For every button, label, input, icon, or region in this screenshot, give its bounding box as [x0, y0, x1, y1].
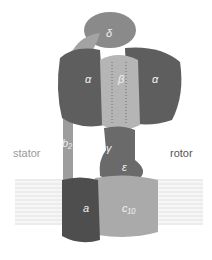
- label-delta: δ: [106, 28, 112, 39]
- label-c: c₁₀: [122, 203, 136, 214]
- protein-structure-drawing: [0, 0, 212, 260]
- alpha-left-subunit: [58, 49, 105, 127]
- label-alpha-left: α: [85, 74, 91, 85]
- label-alpha-right: α: [152, 74, 158, 85]
- atp-synthase-figure: δ α β α b₂ γ ε a c₁₀ stator rotor: [0, 0, 212, 260]
- label-a: a: [83, 203, 89, 214]
- rotor-label: rotor: [170, 148, 193, 159]
- beta-subunit: [100, 55, 140, 130]
- label-b2: b₂: [62, 138, 72, 149]
- label-beta: β: [118, 74, 124, 85]
- label-epsilon: ε: [122, 162, 127, 173]
- stator-label: stator: [13, 148, 41, 159]
- label-gamma: γ: [106, 143, 112, 154]
- a-subunit: [62, 178, 100, 243]
